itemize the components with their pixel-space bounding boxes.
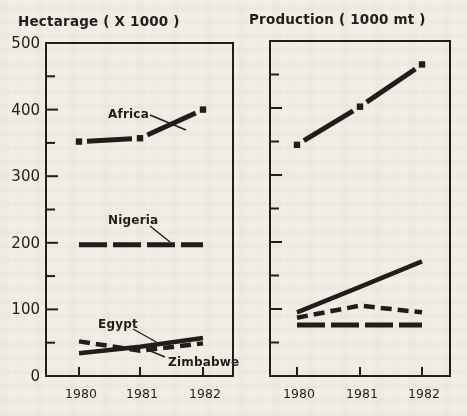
x-axis-label: 1981 bbox=[126, 386, 158, 401]
series-point-africa bbox=[419, 61, 425, 67]
y-axis-label: 0 bbox=[30, 367, 40, 385]
y-axis-label: 300 bbox=[11, 167, 40, 185]
x-axis-label: 1982 bbox=[408, 386, 440, 401]
series-label-pointer-zimbabwe bbox=[148, 350, 165, 357]
y-axis-label: 100 bbox=[11, 300, 40, 318]
axes-frame bbox=[46, 43, 233, 376]
series-line-zimbabwe bbox=[297, 306, 422, 318]
series-point-africa bbox=[76, 138, 82, 144]
production-chart-panel: 198019811982 bbox=[270, 41, 450, 401]
series-line-africa bbox=[87, 139, 132, 141]
x-axis-label: 1980 bbox=[283, 386, 315, 401]
y-axis-label: 200 bbox=[11, 234, 40, 252]
series-line-africa bbox=[304, 111, 353, 141]
series-label-pointer-egypt bbox=[133, 329, 158, 343]
series-label-africa: Africa bbox=[108, 107, 149, 121]
series-point-africa bbox=[200, 106, 206, 112]
series-label-egypt: Egypt bbox=[98, 317, 138, 331]
series-label-zimbabwe: Zimbabwe bbox=[168, 355, 239, 369]
series-line-africa bbox=[367, 69, 416, 102]
series-point-africa bbox=[137, 135, 143, 141]
x-axis-label: 1980 bbox=[65, 386, 97, 401]
hectarage-chart-panel: 0100200300400500198019811982NigeriaZimba… bbox=[11, 34, 239, 401]
x-axis-label: 1982 bbox=[189, 386, 221, 401]
x-axis-label: 1981 bbox=[346, 386, 378, 401]
series-line-egypt bbox=[297, 261, 422, 312]
y-axis-label: 500 bbox=[11, 34, 40, 52]
series-point-africa bbox=[357, 103, 363, 109]
y-axis-label: 400 bbox=[11, 101, 40, 119]
chart-canvas: 0100200300400500198019811982NigeriaZimba… bbox=[0, 0, 467, 416]
series-label-pointer-nigeria bbox=[150, 226, 170, 242]
series-label-nigeria: Nigeria bbox=[108, 213, 158, 227]
series-point-africa bbox=[294, 142, 300, 148]
